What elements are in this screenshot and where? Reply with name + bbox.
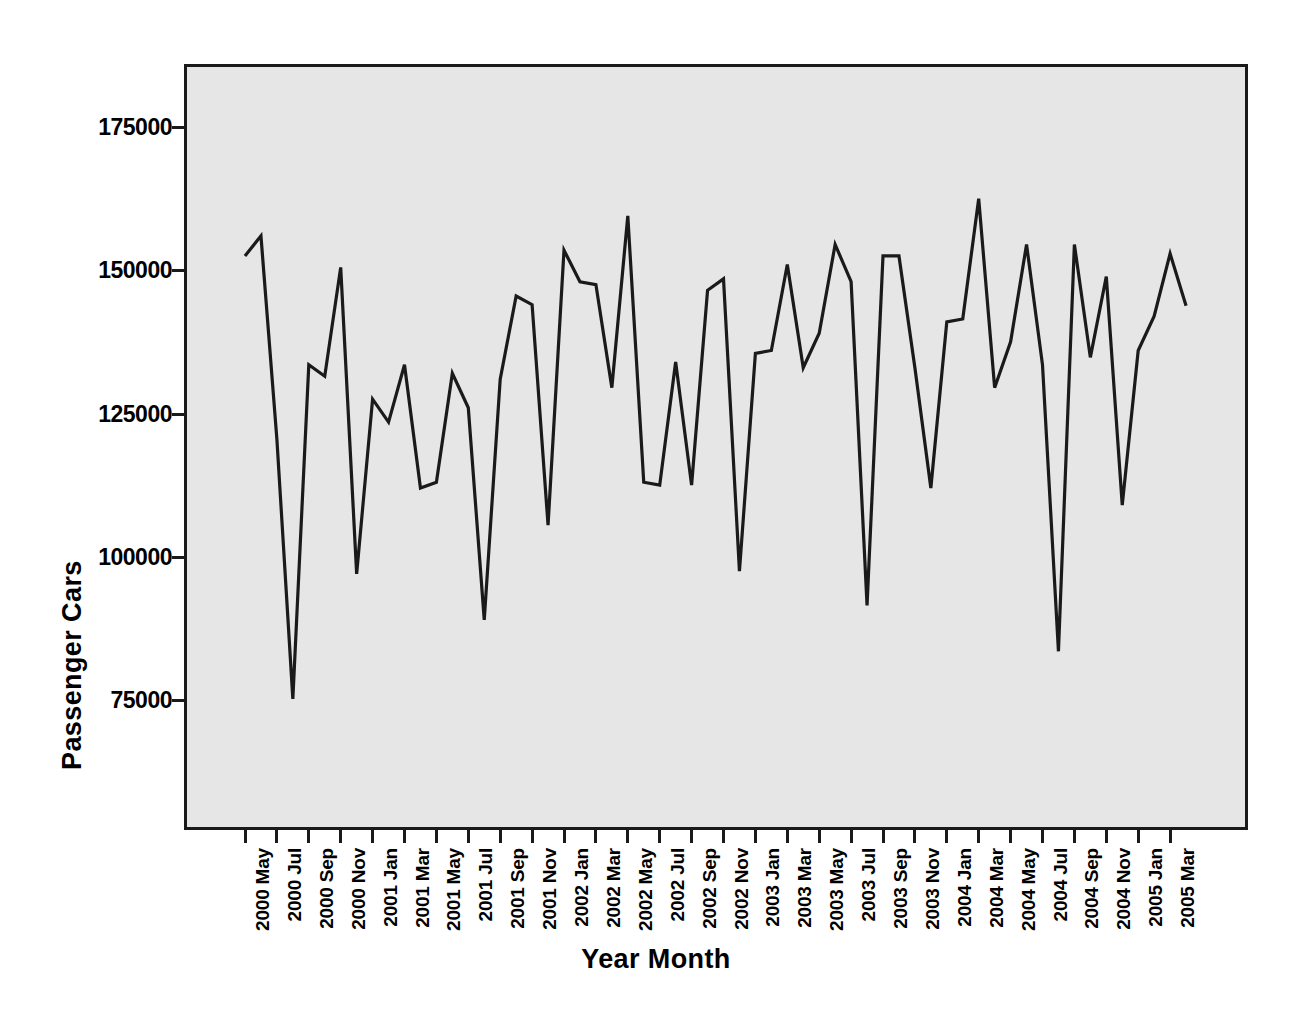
x-tick-mark xyxy=(1041,830,1044,843)
x-tick-mark xyxy=(722,830,725,843)
x-tick-mark xyxy=(563,830,566,843)
x-tick-mark xyxy=(658,830,661,843)
x-tick-label: 2001 May xyxy=(443,848,465,931)
x-tick-mark xyxy=(275,830,278,843)
x-tick-mark xyxy=(371,830,374,843)
x-tick-mark xyxy=(850,830,853,843)
x-tick-mark xyxy=(307,830,310,843)
line-chart: Passenger Cars 7500010000012500015000017… xyxy=(0,0,1312,1027)
y-tick-label: 150000 xyxy=(22,257,172,284)
x-tick-label: 2000 Jul xyxy=(284,848,306,921)
x-tick-label: 2004 Nov xyxy=(1113,848,1135,930)
series-polyline xyxy=(245,199,1186,699)
x-tick-label: 2003 May xyxy=(826,848,848,931)
x-tick-mark xyxy=(1073,830,1076,843)
x-tick-mark xyxy=(1009,830,1012,843)
x-tick-mark xyxy=(467,830,470,843)
x-tick-mark xyxy=(499,830,502,843)
x-tick-label: 2002 May xyxy=(635,848,657,931)
x-tick-mark xyxy=(1137,830,1140,843)
x-tick-mark xyxy=(977,830,980,843)
x-tick-label: 2003 Mar xyxy=(794,848,816,928)
x-tick-label: 2001 Jul xyxy=(475,848,497,921)
x-tick-label: 2004 Sep xyxy=(1081,848,1103,929)
x-tick-mark xyxy=(244,830,247,843)
x-tick-mark xyxy=(754,830,757,843)
x-tick-mark xyxy=(690,830,693,843)
x-tick-label: 2001 Nov xyxy=(539,848,561,930)
x-tick-mark xyxy=(945,830,948,843)
x-tick-mark xyxy=(435,830,438,843)
x-tick-label: 2002 Mar xyxy=(603,848,625,928)
x-tick-label: 2004 May xyxy=(1018,848,1040,931)
x-axis-title: Year Month xyxy=(0,944,1312,975)
x-tick-label: 2005 Mar xyxy=(1177,848,1199,928)
x-tick-mark xyxy=(594,830,597,843)
x-tick-mark xyxy=(626,830,629,843)
y-tick-label: 100000 xyxy=(22,544,172,571)
x-tick-label: 2000 Nov xyxy=(348,848,370,930)
x-tick-label: 2001 Jan xyxy=(380,848,402,927)
x-tick-label: 2002 Nov xyxy=(731,848,753,930)
x-tick-mark xyxy=(403,830,406,843)
x-tick-label: 2004 Jan xyxy=(954,848,976,927)
x-tick-mark xyxy=(882,830,885,843)
x-tick-label: 2004 Mar xyxy=(986,848,1008,928)
x-tick-label: 2001 Sep xyxy=(507,848,529,929)
x-tick-mark xyxy=(786,830,789,843)
x-tick-mark xyxy=(1169,830,1172,843)
x-tick-mark xyxy=(913,830,916,843)
x-tick-label: 2002 Jan xyxy=(571,848,593,927)
x-tick-label: 2002 Jul xyxy=(667,848,689,921)
x-tick-label: 2003 Sep xyxy=(890,848,912,929)
x-tick-mark xyxy=(818,830,821,843)
y-tick-label: 75000 xyxy=(22,687,172,714)
x-tick-label: 2000 Sep xyxy=(316,848,338,929)
x-tick-mark xyxy=(531,830,534,843)
x-tick-label: 2004 Jul xyxy=(1050,848,1072,921)
y-tick-label: 125000 xyxy=(22,401,172,428)
x-tick-mark xyxy=(1105,830,1108,843)
x-tick-label: 2005 Jan xyxy=(1145,848,1167,927)
x-tick-mark xyxy=(339,830,342,843)
x-tick-label: 2001 Mar xyxy=(412,848,434,928)
x-tick-label: 2003 Jan xyxy=(762,848,784,927)
data-line-layer xyxy=(184,64,1248,830)
x-tick-label: 2003 Nov xyxy=(922,848,944,930)
x-tick-label: 2000 May xyxy=(252,848,274,931)
x-tick-label: 2003 Jul xyxy=(858,848,880,921)
y-tick-label: 175000 xyxy=(22,114,172,141)
x-tick-label: 2002 Sep xyxy=(699,848,721,929)
